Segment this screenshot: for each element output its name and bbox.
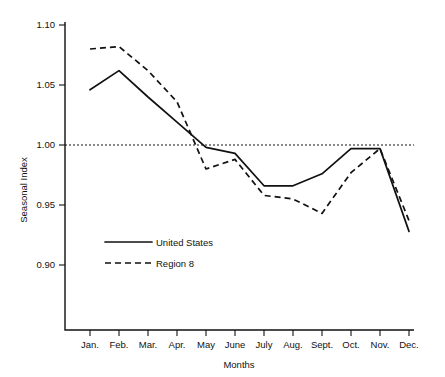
- legend-label-united-states: United States: [156, 237, 213, 248]
- x-tick-label-oct: Oct.: [342, 339, 359, 350]
- x-tick-label-july: July: [256, 339, 273, 350]
- x-tick-label-aug: Aug.: [283, 339, 303, 350]
- y-tick-label-1.00: 1.00: [37, 139, 56, 150]
- x-axis-tick-labels: Jan.Feb.Mar.Apr.MayJuneJulyAug.Sept.Oct.…: [81, 339, 419, 350]
- x-tick-label-may: May: [197, 339, 215, 350]
- y-axis-title: Seasonal Index: [18, 157, 29, 223]
- x-tick-label-jan: Jan.: [81, 339, 99, 350]
- y-axis-ticks: [59, 25, 65, 265]
- x-tick-label-dec: Dec.: [399, 339, 419, 350]
- x-tick-label-apr: Apr.: [169, 339, 186, 350]
- chart-legend: United States Region 8: [105, 237, 213, 269]
- x-tick-label-june: June: [225, 339, 246, 350]
- y-tick-label-1.10: 1.10: [37, 19, 56, 30]
- axis-frame: [65, 22, 414, 330]
- y-tick-label-0.95: 0.95: [37, 199, 56, 210]
- x-axis-ticks: [90, 330, 409, 336]
- x-tick-label-nov: Nov.: [371, 339, 390, 350]
- series-line-region-8: [90, 47, 409, 221]
- seasonal-index-line-chart: 0.900.951.001.051.10 Jan.Feb.Mar.Apr.May…: [0, 0, 445, 377]
- y-tick-label-0.90: 0.90: [37, 259, 56, 270]
- x-axis-title: Months: [223, 359, 254, 370]
- x-tick-label-sept: Sept.: [311, 339, 333, 350]
- chart-canvas: 0.900.951.001.051.10 Jan.Feb.Mar.Apr.May…: [0, 0, 445, 377]
- y-axis-tick-labels: 0.900.951.001.051.10: [37, 19, 56, 270]
- y-tick-label-1.05: 1.05: [37, 79, 56, 90]
- x-tick-label-mar: Mar.: [139, 339, 157, 350]
- series-line-united-states: [90, 71, 409, 232]
- x-tick-label-feb: Feb.: [109, 339, 128, 350]
- legend-label-region-8: Region 8: [156, 258, 194, 269]
